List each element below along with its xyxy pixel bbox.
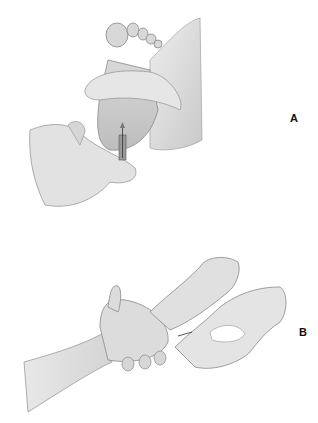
panel-label-a: A xyxy=(290,112,298,124)
finger-stick-illustration xyxy=(0,212,318,423)
panel-label-b: B xyxy=(299,326,307,338)
panel-b-finger-stick: B xyxy=(0,212,318,423)
heel-stick-illustration xyxy=(0,0,318,212)
panel-a-heel-stick: A xyxy=(0,0,318,212)
patient-thumb xyxy=(108,286,121,312)
patient-forearm xyxy=(24,330,112,412)
